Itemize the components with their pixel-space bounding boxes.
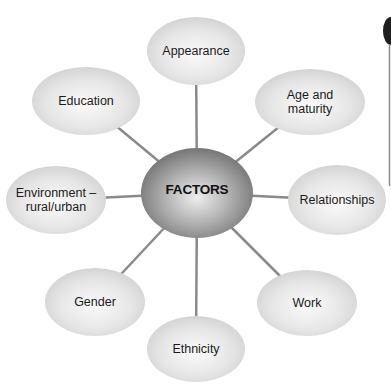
factors-mind-map: AppearanceAge and maturityRelationshipsW…: [0, 0, 391, 384]
node-label-appearance: Appearance: [162, 44, 229, 58]
node-label-environment: Environment – rural/urban: [16, 186, 97, 214]
node-label-ethnicity: Ethnicity: [172, 342, 219, 356]
node-label-education: Education: [58, 94, 114, 108]
center-label: FACTORS: [166, 182, 229, 197]
node-label-relationships: Relationships: [299, 193, 374, 207]
edge-decoration-tab: [383, 17, 391, 45]
node-label-work: Work: [293, 296, 322, 310]
node-label-gender: Gender: [74, 295, 116, 309]
node-label-age-maturity: Age and maturity: [287, 88, 334, 116]
